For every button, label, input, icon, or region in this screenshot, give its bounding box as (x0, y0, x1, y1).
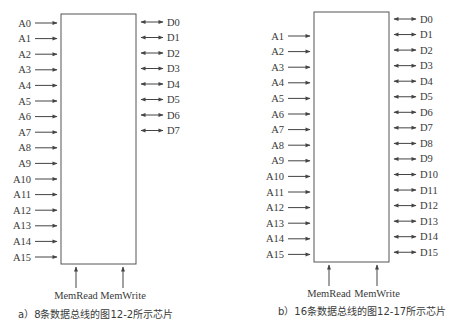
diagram-b-16bit-chip: A1A2A3A4A5A6A7A8A9A10A11A12A13A14A15D0D1… (266, 12, 446, 317)
address-line-label: A12 (13, 205, 31, 216)
data-line-label: D3 (420, 60, 433, 71)
address-line-label: A7 (18, 127, 31, 138)
figure-caption: a）8条数据总线的图12-2所示芯片 (18, 308, 173, 320)
address-line-label: A14 (13, 236, 32, 247)
address-line-label: A5 (18, 96, 31, 107)
data-line-label: D15 (420, 247, 438, 258)
address-line-label: A3 (18, 64, 31, 75)
data-line-label: D8 (420, 138, 433, 149)
address-line-label: A8 (18, 142, 31, 153)
data-line-label: D5 (167, 94, 180, 105)
address-line-label: A6 (271, 109, 284, 120)
data-line-label: D2 (167, 48, 180, 59)
address-line-label: A8 (271, 140, 284, 151)
data-line-label: D6 (420, 107, 433, 118)
memwrite-label: MemWrite (100, 290, 146, 301)
address-line-label: A13 (13, 220, 31, 231)
figure-caption: b）16条数据总线的图12-17所示芯片 (278, 305, 446, 317)
data-line-label: D7 (167, 125, 180, 136)
data-line-label: D9 (420, 153, 433, 164)
diagram-a-8bit-chip: A0A1A2A3A4A5A6A7A8A9A10A11A12A13A14A15D0… (13, 14, 181, 320)
address-line-label: A4 (271, 77, 285, 88)
memread-label: MemRead (307, 288, 351, 299)
address-line-label: A15 (13, 252, 31, 263)
data-line-label: D3 (167, 63, 180, 74)
address-line-label: A13 (266, 218, 284, 229)
address-line-label: A4 (18, 80, 32, 91)
address-line-label: A15 (266, 249, 284, 260)
memory-chip-box (61, 14, 136, 264)
memread-label: MemRead (54, 290, 98, 301)
address-line-label: A2 (271, 46, 284, 57)
address-line-label: A5 (271, 93, 284, 104)
data-line-label: D13 (420, 216, 438, 227)
address-line-label: A3 (271, 62, 284, 73)
address-line-label: A14 (266, 233, 285, 244)
data-line-label: D1 (167, 32, 180, 43)
address-line-label: A7 (271, 124, 284, 135)
address-line-label: A0 (18, 18, 31, 29)
data-line-label: D14 (420, 231, 439, 242)
data-line-label: D0 (420, 14, 433, 25)
data-line-label: D4 (167, 79, 181, 90)
data-line-label: D4 (420, 76, 434, 87)
address-line-label: A10 (13, 174, 31, 185)
data-line-label: D5 (420, 91, 433, 102)
data-line-label: D12 (420, 200, 438, 211)
data-line-label: D10 (420, 169, 438, 180)
address-line-label: A1 (18, 33, 31, 44)
address-line-label: A1 (271, 31, 284, 42)
data-line-label: D6 (167, 110, 180, 121)
address-line-label: A11 (13, 189, 31, 200)
memory-chip-box (314, 12, 389, 262)
memory-chip-diagrams: A0A1A2A3A4A5A6A7A8A9A10A11A12A13A14A15D0… (0, 0, 455, 323)
address-line-label: A9 (271, 155, 284, 166)
address-line-label: A2 (18, 49, 31, 60)
data-line-label: D0 (167, 17, 180, 28)
address-line-label: A6 (18, 111, 31, 122)
data-line-label: D11 (420, 185, 438, 196)
address-line-label: A10 (266, 171, 284, 182)
address-line-label: A11 (266, 187, 284, 198)
data-line-label: D2 (420, 45, 433, 56)
memwrite-label: MemWrite (354, 288, 400, 299)
address-line-label: A9 (18, 158, 31, 169)
data-line-label: D7 (420, 122, 433, 133)
address-line-label: A12 (266, 202, 284, 213)
data-line-label: D1 (420, 29, 433, 40)
